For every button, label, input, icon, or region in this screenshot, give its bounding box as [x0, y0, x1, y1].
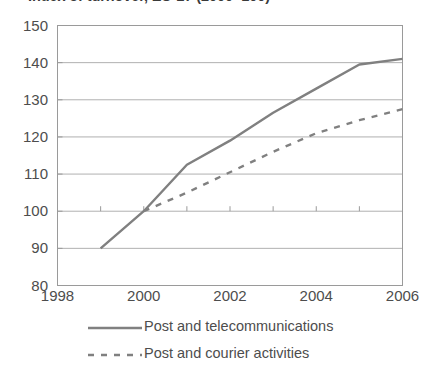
x-axis-tick-label: 2004	[289, 288, 343, 304]
y-axis-tick-label: 120	[12, 129, 48, 144]
y-axis-tick-label: 150	[12, 18, 48, 33]
chart-plot-area: 1501401301201101009080 19982000200220042…	[0, 0, 415, 300]
y-axis-tick-label: 90	[12, 240, 48, 255]
y-axis-tick-label: 100	[12, 203, 48, 218]
data-series-line-1	[101, 59, 403, 248]
plot-border	[58, 26, 403, 286]
legend-item[interactable]: Post and telecommunications	[0, 312, 415, 339]
legend-item-label: Post and courier activities	[144, 345, 309, 361]
x-axis-tick-label: 1998	[31, 288, 85, 304]
legend-item[interactable]: Post and courier activities	[0, 339, 415, 366]
y-axis-tick-label: 140	[12, 55, 48, 70]
y-axis-tick-label: 130	[12, 92, 48, 107]
y-axis-tick-label: 110	[12, 166, 48, 181]
x-axis-tick-label: 2002	[203, 288, 257, 304]
chart-legend: Post and telecommunicationsPost and cour…	[0, 312, 415, 366]
x-tick-mark-group	[58, 206, 403, 211]
gridline-group	[58, 26, 403, 286]
legend-dashed-line-icon	[88, 347, 142, 359]
x-axis-tick-label: 2006	[376, 288, 424, 304]
data-series-line-2	[144, 109, 403, 211]
legend-item-label: Post and telecommunications	[144, 318, 333, 334]
legend-solid-line-icon	[88, 320, 142, 332]
x-axis-tick-label: 2000	[117, 288, 171, 304]
data-series-group	[101, 59, 403, 248]
chart-svg	[0, 0, 415, 300]
